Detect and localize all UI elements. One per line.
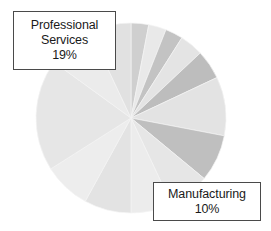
pie-chart: Professional Services 19% Manufacturing …: [0, 0, 271, 231]
callout-professional-services-percent: 19%: [52, 48, 77, 63]
callout-manufacturing-name: Manufacturing: [168, 187, 246, 202]
callout-professional-services: Professional Services 19%: [13, 11, 116, 70]
callout-professional-services-name: Professional: [31, 18, 99, 33]
callout-manufacturing: Manufacturing 10%: [153, 182, 261, 221]
callout-manufacturing-percent: 10%: [195, 202, 220, 217]
callout-professional-services-name2: Services: [41, 33, 88, 48]
